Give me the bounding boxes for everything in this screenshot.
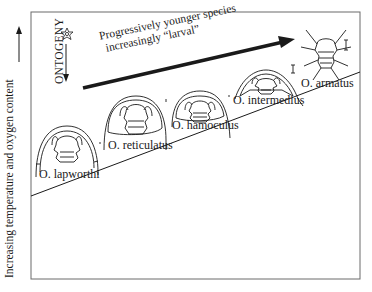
species-label-lapworthi: O. lapworthi	[39, 168, 100, 180]
up-arrow-icon	[16, 26, 22, 62]
species-label-intermedius: O. intermedius	[233, 94, 304, 106]
ontogeny-label: ONTOGENY	[53, 18, 65, 84]
species-label-hamoculus: O. hamoculus	[172, 119, 239, 131]
species-label-armatus: O. armatus	[301, 77, 354, 89]
trilobite-armatus	[301, 30, 351, 80]
evolution-diagram: Increasing temperature and oxygen conten…	[0, 0, 372, 292]
y-axis-label: Increasing temperature and oxygen conten…	[3, 79, 15, 278]
species-label-reticulatus: O. reticulatus	[108, 139, 173, 151]
plot-frame	[31, 12, 360, 279]
